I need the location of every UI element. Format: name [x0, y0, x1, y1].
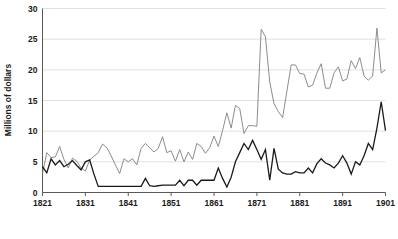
gridlines	[43, 9, 386, 162]
x-tick-label: 1861	[205, 198, 224, 208]
x-tick-label: 1871	[247, 198, 266, 208]
x-tick-label: 1841	[119, 198, 138, 208]
y-tick-label: 15	[28, 96, 38, 106]
data-series	[43, 28, 386, 187]
x-tick-label: 1881	[290, 198, 309, 208]
x-tick-label: 1891	[333, 198, 352, 208]
y-tick-label: 5	[33, 157, 38, 167]
x-tick-label: 1821	[33, 198, 52, 208]
series-line-exports	[43, 102, 386, 187]
x-tick-label: 1851	[162, 198, 181, 208]
y-tick-label: 10	[28, 126, 38, 136]
y-tick-label: 30	[28, 4, 38, 14]
y-tick-label: 25	[28, 34, 38, 44]
line-chart: 051015202530 182118311841185118611871188…	[0, 0, 398, 239]
x-tick-label: 1901	[376, 198, 395, 208]
y-tick-label: 0	[33, 188, 38, 198]
y-axis-tick-labels: 051015202530	[28, 4, 38, 198]
chart-container: 051015202530 182118311841185118611871188…	[0, 0, 398, 239]
y-axis-title: Millions of dollars	[3, 64, 13, 137]
x-tick-label: 1831	[76, 198, 95, 208]
x-axis-tick-labels: 182118311841185118611871188118911901	[33, 198, 395, 208]
y-tick-label: 20	[28, 65, 38, 75]
